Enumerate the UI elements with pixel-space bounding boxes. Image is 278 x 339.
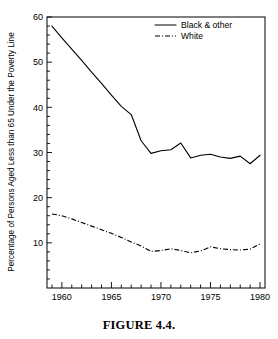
figure-4-4: 102030405060 19601965197019751980 Percen… [0, 0, 278, 339]
y-tick-label: 30 [33, 148, 43, 158]
y-tick-label: 40 [33, 103, 43, 113]
y-tick-label: 20 [33, 193, 43, 203]
x-axis-minor-ticks [52, 285, 250, 289]
x-tick-label: 1965 [101, 292, 121, 302]
y-axis-title-group: Percentage of Persons Aged Less than 65 … [7, 32, 16, 272]
legend-label-black-and-other: Black & other [181, 20, 232, 30]
y-axis-title: Percentage of Persons Aged Less than 65 … [7, 32, 16, 272]
y-axis-tick-labels: 102030405060 [33, 12, 43, 248]
x-tick-label: 1960 [52, 292, 72, 302]
y-axis-ticks [47, 17, 52, 243]
x-tick-label: 1980 [250, 292, 270, 302]
poverty-line-chart: 102030405060 19601965197019751980 Percen… [0, 0, 278, 339]
x-tick-label: 1970 [151, 292, 171, 302]
series-group [52, 26, 260, 253]
y-tick-label: 10 [33, 238, 43, 248]
series-white [52, 214, 260, 253]
figure-caption: FIGURE 4.4. [0, 318, 278, 333]
x-tick-label: 1975 [200, 292, 220, 302]
series-black-other [52, 26, 260, 164]
chart-legend: Black & other White [155, 20, 232, 41]
legend-label-white: White [181, 31, 203, 41]
y-tick-label: 60 [33, 12, 43, 22]
x-axis-tick-labels: 19601965197019751980 [52, 292, 270, 302]
y-tick-label: 50 [33, 57, 43, 67]
